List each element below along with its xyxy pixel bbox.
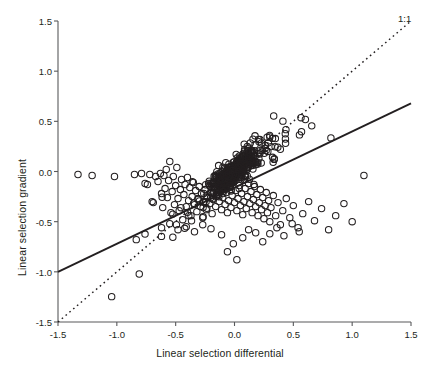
data-point	[167, 158, 173, 164]
data-point	[311, 217, 317, 223]
data-point	[171, 201, 177, 207]
data-point	[258, 206, 264, 212]
data-point	[224, 249, 230, 255]
data-point	[218, 232, 224, 238]
data-point	[260, 239, 266, 245]
data-point	[111, 173, 117, 179]
data-point	[163, 166, 169, 172]
data-point	[268, 204, 274, 210]
data-point	[300, 210, 306, 216]
data-point	[167, 220, 173, 226]
data-point	[325, 226, 331, 232]
data-point	[169, 188, 175, 194]
data-point	[280, 207, 286, 213]
data-point	[255, 212, 261, 218]
data-point	[282, 140, 288, 146]
data-point	[168, 209, 174, 215]
data-point	[267, 218, 273, 224]
y-tick-label: 0.0	[28, 166, 52, 177]
x-axis-label: Linear selection differential	[0, 347, 440, 359]
x-tick-label: 0.5	[287, 329, 300, 340]
data-point	[289, 220, 295, 226]
plot-canvas	[0, 0, 440, 371]
data-point	[208, 225, 214, 231]
data-point	[209, 210, 215, 216]
data-point	[270, 192, 276, 198]
x-tick-label: 0.0	[228, 329, 241, 340]
y-tick-label: -1.0	[28, 266, 52, 277]
data-point	[191, 229, 197, 235]
data-point	[108, 293, 114, 299]
data-point	[245, 226, 251, 232]
data-point	[175, 195, 181, 201]
data-point	[131, 171, 137, 177]
x-tick-label: -0.5	[167, 329, 183, 340]
data-point	[275, 199, 281, 205]
data-point	[240, 211, 246, 217]
y-tick-label: -0.5	[28, 216, 52, 227]
data-point	[332, 212, 338, 218]
data-point	[271, 113, 277, 119]
data-point	[341, 200, 347, 206]
x-tick-label: -1.5	[50, 329, 66, 340]
data-point	[158, 224, 164, 230]
data-point	[160, 204, 166, 210]
data-point	[295, 224, 301, 230]
data-point	[183, 223, 189, 229]
data-point	[181, 225, 187, 231]
x-tick-label: 1.5	[404, 329, 417, 340]
data-point	[318, 205, 324, 211]
data-points-group	[75, 113, 367, 300]
data-point	[75, 171, 81, 177]
data-point	[138, 170, 144, 176]
one-to-one-line-label: 1:1	[398, 13, 411, 24]
y-tick-label: 0.5	[28, 116, 52, 127]
data-point	[170, 173, 176, 179]
data-point	[281, 233, 287, 239]
y-tick-label: 1.5	[28, 16, 52, 27]
data-point	[283, 195, 289, 201]
data-point	[290, 202, 296, 208]
data-point	[89, 172, 95, 178]
x-tick-label: -1.0	[109, 329, 125, 340]
data-point	[272, 212, 278, 218]
data-point	[240, 235, 246, 241]
data-point	[144, 181, 150, 187]
data-point	[170, 234, 176, 240]
data-point	[349, 218, 355, 224]
data-point	[287, 214, 293, 220]
data-point	[361, 172, 367, 178]
data-point	[136, 271, 142, 277]
y-axis-label: Linear selection gradient	[16, 159, 28, 276]
x-tick-label: 1.0	[346, 329, 359, 340]
data-point	[267, 231, 273, 237]
data-point	[237, 202, 243, 208]
data-point	[296, 229, 302, 235]
data-point	[162, 185, 168, 191]
data-point	[234, 257, 240, 263]
data-point	[280, 118, 286, 124]
data-point	[181, 191, 187, 197]
data-point	[200, 221, 206, 227]
data-point	[182, 181, 188, 187]
data-point	[230, 241, 236, 247]
scatter-plot-figure: -1.5-1.0-0.50.00.51.01.51.51.00.50.0-0.5…	[0, 0, 440, 371]
y-tick-label: -1.5	[28, 317, 52, 328]
data-point	[133, 236, 139, 242]
data-point	[263, 189, 269, 195]
data-point	[305, 198, 311, 204]
data-point	[174, 164, 180, 170]
y-tick-label: 1.0	[28, 66, 52, 77]
data-point	[252, 230, 258, 236]
data-point	[309, 123, 315, 129]
